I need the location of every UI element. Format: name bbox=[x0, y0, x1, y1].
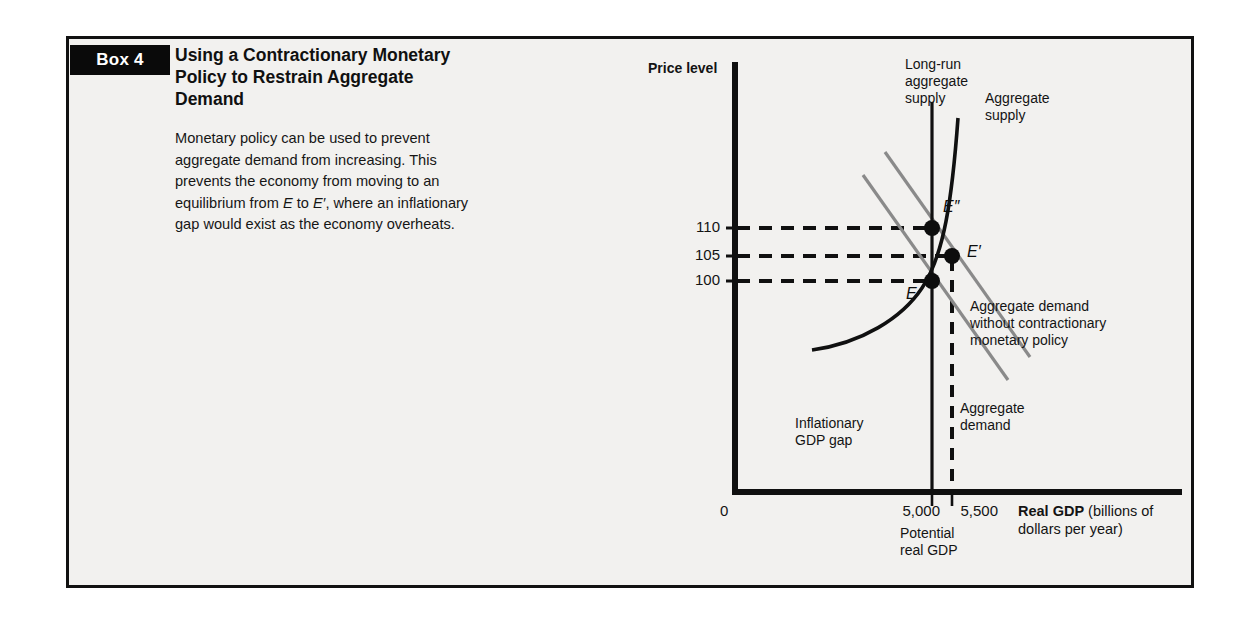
body-point-E: E bbox=[283, 195, 293, 211]
label-E: E bbox=[906, 285, 917, 303]
aggregate-supply-demand-chart: Price level Long-run aggregate supply Ag… bbox=[600, 40, 1200, 585]
body-point-E-prime: E′ bbox=[313, 195, 325, 211]
equilibrium-point-E-prime bbox=[944, 248, 960, 264]
y-tick-label-110: 110 bbox=[672, 218, 720, 235]
x-axis-title-bold: Real GDP bbox=[1018, 503, 1084, 519]
box-title: Using a Contractionary Monetary Policy t… bbox=[175, 44, 485, 110]
label-E-prime: E′ bbox=[967, 243, 981, 261]
y-tick-label-105: 105 bbox=[672, 246, 720, 263]
x-axis-title: Real GDP (billions of dollars per year) bbox=[1018, 502, 1178, 538]
potential-real-gdp-label: Potential real GDP bbox=[900, 525, 958, 559]
long-run-aggregate-supply-label: Long-run aggregate supply bbox=[905, 56, 968, 107]
aggregate-supply-label: Aggregate supply bbox=[985, 90, 1050, 124]
aggregate-demand-without-policy-label: Aggregate demand without contractionary … bbox=[970, 298, 1106, 349]
inflationary-gdp-gap-label: Inflationary GDP gap bbox=[795, 415, 863, 449]
y-tick-label-100: 100 bbox=[672, 271, 720, 288]
x-tick-label-0: 0 bbox=[720, 502, 740, 519]
equilibrium-point-E bbox=[924, 273, 940, 289]
equilibrium-point-E-double-prime bbox=[924, 220, 940, 236]
label-E-double-prime: E″ bbox=[943, 198, 959, 216]
y-axis-title: Price level bbox=[648, 60, 717, 77]
x-tick-label-5500: 5,500 bbox=[946, 502, 998, 519]
page-root: Box 4 Using a Contractionary Monetary Po… bbox=[0, 0, 1260, 625]
box-number-tag: Box 4 bbox=[70, 45, 170, 75]
box-body-text: Monetary policy can be used to prevent a… bbox=[175, 128, 471, 236]
aggregate-demand-label: Aggregate demand bbox=[960, 400, 1025, 434]
body-part-to: to bbox=[293, 195, 313, 211]
x-tick-label-5000: 5,000 bbox=[890, 502, 940, 519]
